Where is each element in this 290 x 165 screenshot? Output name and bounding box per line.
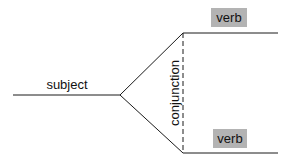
conjunction-label: conjunction xyxy=(167,60,182,126)
top-verb-label: verb xyxy=(216,10,241,25)
sentence-diagram: subject conjunction verb verb xyxy=(0,0,290,165)
bottom-verb-label: verb xyxy=(217,131,242,146)
subject-label: subject xyxy=(46,77,88,92)
